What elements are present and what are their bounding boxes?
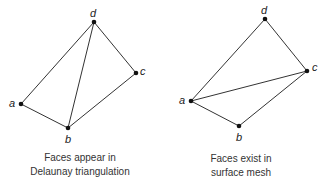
label-a: a bbox=[179, 94, 185, 106]
edge-a-d bbox=[21, 22, 94, 104]
caption-line-2: Delaunay triangulation bbox=[30, 166, 130, 177]
caption-line-2: surface mesh bbox=[211, 167, 271, 178]
point-a bbox=[19, 102, 24, 107]
caption-line-1: Faces exist in bbox=[210, 153, 271, 164]
point-b bbox=[237, 124, 242, 129]
edge-b-a bbox=[21, 104, 68, 128]
point-a bbox=[189, 99, 194, 104]
edge-d-c bbox=[265, 19, 307, 71]
point-c bbox=[305, 69, 310, 74]
point-c bbox=[134, 71, 139, 76]
label-a: a bbox=[9, 97, 15, 109]
edge-a-c bbox=[191, 71, 307, 101]
point-d bbox=[263, 17, 268, 22]
label-b: b bbox=[236, 131, 242, 143]
label-c: c bbox=[312, 61, 318, 73]
label-b: b bbox=[65, 133, 71, 145]
left-diagram: d c a b Faces appear in Delaunay triangu… bbox=[9, 7, 146, 177]
edge-c-b bbox=[68, 73, 136, 128]
edge-a-d bbox=[191, 19, 265, 101]
edge-b-a bbox=[191, 101, 239, 126]
diagram-canvas: d c a b Faces appear in Delaunay triangu… bbox=[0, 0, 322, 190]
label-c: c bbox=[140, 65, 146, 77]
edge-d-c bbox=[94, 22, 136, 73]
label-d: d bbox=[261, 4, 268, 16]
right-diagram: d c a b Faces exist in surface mesh bbox=[179, 4, 318, 178]
edge-c-b bbox=[239, 71, 307, 126]
point-d bbox=[92, 20, 97, 25]
edge-b-d bbox=[68, 22, 94, 128]
caption-line-1: Faces appear in bbox=[44, 152, 116, 163]
label-d: d bbox=[90, 7, 97, 19]
point-b bbox=[66, 126, 71, 131]
